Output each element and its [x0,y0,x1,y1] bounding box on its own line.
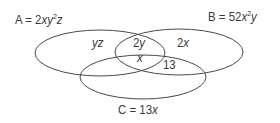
set-a-expr-main: 2xy [35,12,53,27]
set-b-name: B [208,9,216,24]
region-a-and-b: 2y [133,36,145,49]
set-c-name: C [118,102,126,117]
region-a-only: yz [92,36,103,49]
set-a-expr-tail: z [57,12,63,27]
equals-sign: = [25,12,32,27]
equals-sign: = [129,102,136,117]
set-c-expr: 13x [139,102,157,117]
region-b-only: 2x [177,36,189,49]
region-b-and-c: 13 [163,58,176,71]
set-b-expr-main: 52x [229,9,247,24]
equals-sign: = [219,9,226,24]
set-b-label: B = 52x2y [208,10,257,23]
set-a-label: A = 2xy2z [15,13,63,26]
set-c-label: C = 13x [118,103,158,116]
set-b-expr-tail: y [251,9,257,24]
region-a-b-c: x [137,51,143,64]
set-a-name: A [15,12,22,27]
